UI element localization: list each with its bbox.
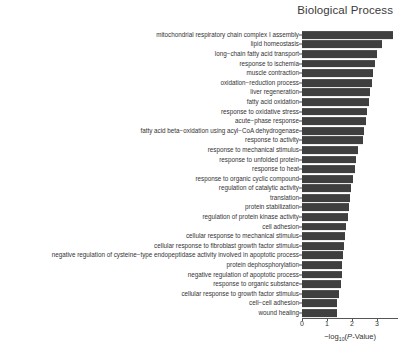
- bar[interactable]: [302, 261, 342, 269]
- bar-row[interactable]: response to oxidative stress: [0, 107, 401, 117]
- category-label: protein dephosphorylation: [227, 262, 299, 268]
- bar-row[interactable]: fatty acid oxidation: [0, 97, 401, 107]
- bar-row[interactable]: cell−cell adhesion: [0, 299, 401, 309]
- category-label: lipid homeostasis: [251, 41, 299, 47]
- category-label: mitochondrial respiratory chain complex …: [156, 32, 299, 38]
- category-label: response to activity: [245, 137, 299, 143]
- category-label: response to mechanical stimulus: [208, 147, 299, 153]
- bar-row[interactable]: liver regeneration: [0, 88, 401, 98]
- bar[interactable]: [302, 31, 393, 39]
- category-label: negative regulation of cysteine−type end…: [52, 252, 299, 258]
- category-label: oxidation−reduction process: [220, 80, 299, 86]
- x-tick-label: 0: [300, 320, 304, 327]
- category-label: wound healing: [258, 310, 299, 316]
- bar[interactable]: [302, 271, 342, 279]
- x-tick-label: 3: [375, 320, 379, 327]
- bar[interactable]: [302, 280, 341, 288]
- bar[interactable]: [302, 204, 349, 212]
- bar-row[interactable]: response to unfolded protein: [0, 155, 401, 165]
- bar[interactable]: [302, 290, 339, 298]
- bar-row[interactable]: regulation of catalytic activity: [0, 184, 401, 194]
- category-label: response to organic substance: [213, 281, 299, 287]
- bar[interactable]: [302, 213, 348, 221]
- bar-row[interactable]: lipid homeostasis: [0, 40, 401, 50]
- bar-row[interactable]: cellular response to growth factor stimu…: [0, 289, 401, 299]
- bar[interactable]: [302, 194, 350, 202]
- bar[interactable]: [302, 60, 375, 68]
- category-label: fatty acid beta−oxidation using acyl−CoA…: [140, 128, 299, 134]
- bar[interactable]: [302, 127, 364, 135]
- plot-area: mitochondrial respiratory chain complex …: [0, 30, 401, 318]
- bar-row[interactable]: cell adhesion: [0, 222, 401, 232]
- bar[interactable]: [302, 175, 353, 183]
- x-axis-title: −log10(P-Value): [302, 332, 398, 342]
- category-label: liver regeneration: [250, 89, 299, 95]
- category-label: long−chain fatty acid transport: [215, 51, 299, 57]
- x-axis-line: [302, 318, 398, 319]
- category-label: response to organic cyclic compound: [195, 176, 299, 182]
- bar-row[interactable]: oxidation−reduction process: [0, 78, 401, 88]
- category-label: cell adhesion: [262, 224, 299, 230]
- bar-row[interactable]: regulation of protein kinase activity: [0, 212, 401, 222]
- category-label: response to ischemia: [239, 60, 299, 66]
- bar[interactable]: [302, 50, 377, 58]
- bar-row[interactable]: fatty acid beta−oxidation using acyl−CoA…: [0, 126, 401, 136]
- category-label: cellular response to growth factor stimu…: [181, 291, 299, 297]
- biological-process-bar-chart: Biological Process mitochondrial respira…: [0, 0, 401, 350]
- category-label: regulation of protein kinase activity: [202, 214, 299, 220]
- bar-row[interactable]: cellular response to fibroblast growth f…: [0, 241, 401, 251]
- category-label: fatty acid oxidation: [247, 99, 299, 105]
- category-label: muscle contraction: [247, 70, 300, 76]
- bar[interactable]: [302, 242, 344, 250]
- bar[interactable]: [302, 117, 366, 125]
- category-label: response to heat: [252, 166, 299, 172]
- bar-row[interactable]: response to organic cyclic compound: [0, 174, 401, 184]
- bar[interactable]: [302, 309, 337, 317]
- bar[interactable]: [302, 88, 370, 96]
- bar[interactable]: [302, 165, 355, 173]
- bar-row[interactable]: negative regulation of cysteine−type end…: [0, 251, 401, 261]
- bar[interactable]: [302, 184, 351, 192]
- bar-row[interactable]: long−chain fatty acid transport: [0, 49, 401, 59]
- category-label: acute−phase response: [235, 118, 299, 124]
- category-label: response to oxidative stress: [221, 108, 299, 114]
- bar-row[interactable]: response to mechanical stimulus: [0, 145, 401, 155]
- bar[interactable]: [302, 40, 382, 48]
- bar[interactable]: [302, 79, 372, 87]
- bar-row[interactable]: cellular response to mechanical stimulus: [0, 231, 401, 241]
- bar[interactable]: [302, 252, 343, 260]
- bar-row[interactable]: protein stabilization: [0, 203, 401, 213]
- bar-row[interactable]: negative regulation of apoptotic process: [0, 270, 401, 280]
- category-label: regulation of catalytic activity: [219, 185, 299, 191]
- bar-row[interactable]: response to ischemia: [0, 59, 401, 69]
- category-label: cellular response to mechanical stimulus: [186, 233, 299, 239]
- bar[interactable]: [302, 108, 367, 116]
- bar-row[interactable]: response to organic substance: [0, 279, 401, 289]
- bar[interactable]: [302, 146, 358, 154]
- bar[interactable]: [302, 98, 369, 106]
- bar[interactable]: [302, 223, 346, 231]
- bar[interactable]: [302, 232, 345, 240]
- category-label: response to unfolded protein: [219, 156, 299, 162]
- category-label: negative regulation of apoptotic process: [188, 271, 299, 277]
- bar-row[interactable]: wound healing: [0, 308, 401, 318]
- bar[interactable]: [302, 69, 373, 77]
- bar[interactable]: [302, 156, 356, 164]
- category-label: cell−cell adhesion: [249, 300, 299, 306]
- bar-row[interactable]: response to heat: [0, 164, 401, 174]
- category-label: cellular response to fibroblast growth f…: [154, 243, 299, 249]
- x-tick-label: 1: [325, 320, 329, 327]
- bar-row[interactable]: translation: [0, 193, 401, 203]
- bar-row[interactable]: acute−phase response: [0, 116, 401, 126]
- bar-row[interactable]: protein dephosphorylation: [0, 260, 401, 270]
- x-tick-label: 2: [350, 320, 354, 327]
- bar-row[interactable]: response to activity: [0, 136, 401, 146]
- chart-title: Biological Process: [297, 4, 393, 16]
- bar-row[interactable]: mitochondrial respiratory chain complex …: [0, 30, 401, 40]
- category-label: protein stabilization: [245, 204, 299, 210]
- bar-row[interactable]: muscle contraction: [0, 68, 401, 78]
- category-label: translation: [270, 195, 299, 201]
- bar[interactable]: [302, 136, 363, 144]
- bar[interactable]: [302, 300, 337, 308]
